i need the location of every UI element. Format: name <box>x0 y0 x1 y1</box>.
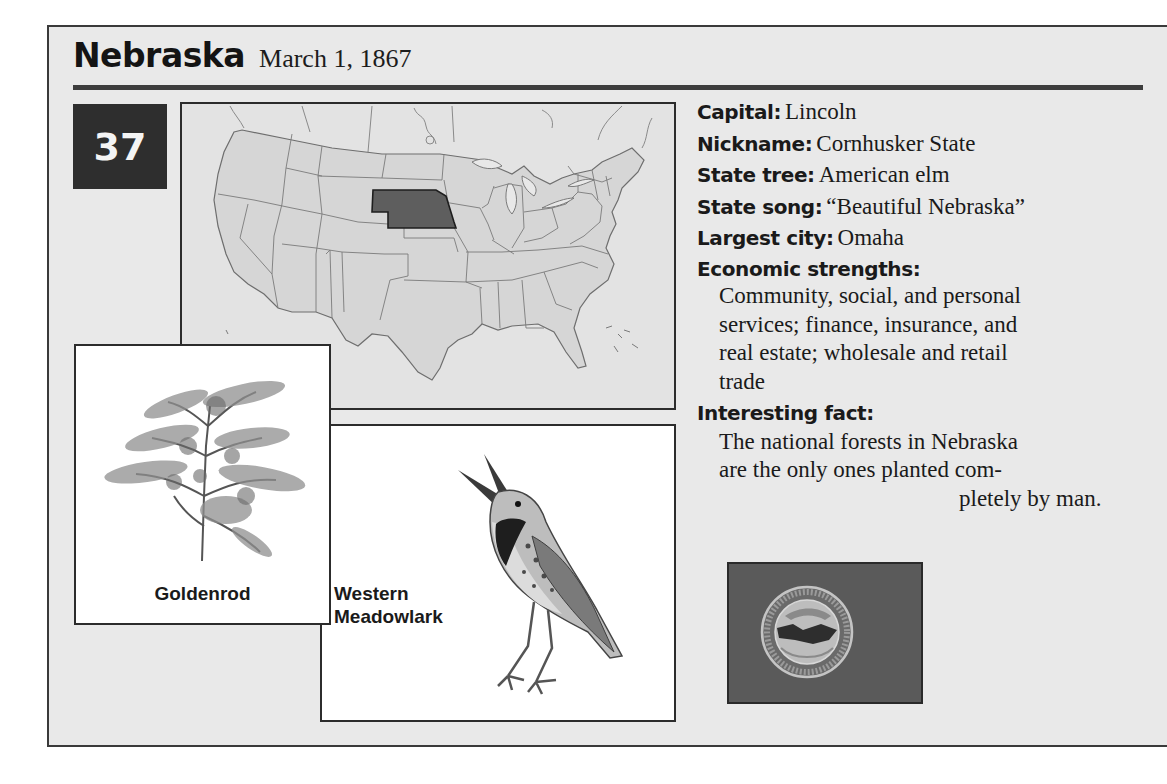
state-bird-card: Western Meadowlark <box>320 424 676 722</box>
fact-interesting-fact: Interesting fact: <box>697 398 1157 430</box>
fact-largest-city: Largest city: Omaha <box>697 222 1157 254</box>
body-line: pletely by man. <box>719 485 1157 514</box>
title-rule <box>73 85 1143 90</box>
body-line: real estate; wholesale and retail <box>719 339 1157 368</box>
fact-label: Economic strengths: <box>697 257 920 281</box>
body-line: Community, social, and personal <box>719 282 1157 311</box>
bird-caption-line1: Western <box>334 582 443 605</box>
statehood-order-badge: 37 <box>73 104 167 189</box>
body-line: trade <box>719 368 1157 397</box>
fact-value: “Beautiful Nebraska” <box>826 194 1025 219</box>
fact-value: Omaha <box>838 225 904 250</box>
meadowlark-icon <box>322 426 674 720</box>
fact-label: State song: <box>697 195 822 219</box>
state-flag <box>727 562 923 704</box>
fact-label: Interesting fact: <box>697 401 874 425</box>
state-name: Nebraska <box>73 36 245 75</box>
body-line: The national forests in Nebraska <box>719 428 1157 457</box>
fact-value: Lincoln <box>785 99 857 124</box>
statehood-date: March 1, 1867 <box>259 44 411 73</box>
fact-label: State tree: <box>697 163 815 187</box>
fact-capital: Capital: Lincoln <box>697 96 1157 128</box>
interesting-fact-text: The national forests in Nebraska are the… <box>697 428 1157 514</box>
fact-value: American elm <box>819 162 950 187</box>
body-line: services; finance, insurance, and <box>719 311 1157 340</box>
fact-label: Capital: <box>697 100 781 124</box>
page-title: NebraskaMarch 1, 1867 <box>73 36 411 75</box>
fact-value: Cornhusker State <box>816 131 975 156</box>
fact-nickname: Nickname: Cornhusker State <box>697 128 1157 160</box>
flower-caption: Goldenrod <box>76 583 329 605</box>
body-line: are the only ones planted com- <box>719 456 1157 485</box>
bird-caption: Western Meadowlark <box>334 582 443 628</box>
fact-label: Largest city: <box>697 226 834 250</box>
goldenrod-icon <box>76 346 329 576</box>
state-seal-icon <box>729 564 921 702</box>
fact-state-tree: State tree: American elm <box>697 159 1157 191</box>
economic-strengths-text: Community, social, and personal services… <box>697 282 1157 396</box>
fact-economic-strengths: Economic strengths: <box>697 254 1157 286</box>
state-flower-card: Goldenrod <box>74 344 331 625</box>
fact-label: Nickname: <box>697 132 812 156</box>
state-facts: Capital: Lincoln Nickname: Cornhusker St… <box>697 96 1157 513</box>
bird-caption-line2: Meadowlark <box>334 605 443 628</box>
fact-state-song: State song: “Beautiful Nebraska” <box>697 191 1157 223</box>
